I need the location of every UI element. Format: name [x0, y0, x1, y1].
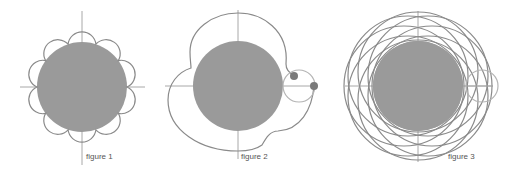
trace-point [310, 82, 318, 90]
figures-canvas: figure 1 figure 2 figure 3 [0, 0, 524, 176]
trace-point [290, 72, 298, 80]
figure-label: figure 1 [86, 152, 113, 161]
fixed-disc [37, 42, 127, 132]
fixed-disc-overlay [373, 41, 463, 131]
figure-2: figure 2 [165, 10, 318, 161]
figure-1: figure 1 [13, 11, 151, 165]
figure-3: figure 3 [344, 11, 498, 162]
figure-label: figure 3 [448, 152, 475, 161]
figure-label: figure 2 [241, 152, 268, 161]
fixed-disc [193, 41, 283, 131]
